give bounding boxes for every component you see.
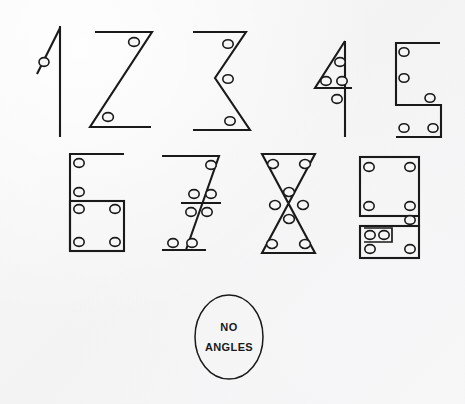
digit-8-group [262,154,315,253]
digit-9-group [360,157,419,258]
angle-dot [187,239,197,248]
angle-dot [129,38,140,47]
angle-dot [365,245,375,254]
angle-dot [284,215,295,224]
digit-1-flag [37,28,60,74]
angle-dot [186,208,196,217]
digit-5-group [396,43,441,137]
digit-7-group [162,156,221,250]
zero-label-line2: ANGLES [205,341,253,353]
angle-dot [202,208,212,217]
angle-dot [298,201,309,210]
digit-2-path [90,32,152,127]
angle-dot [405,245,415,254]
angle-dot [300,240,311,249]
angle-dot [337,77,347,86]
angle-dot [189,190,199,199]
angle-dot [335,58,345,67]
angle-dot [399,124,409,133]
digit-3-path [193,32,250,130]
digit-6-group [70,154,124,251]
angle-dot [300,160,311,169]
digit-0-group: NO ANGLES [195,295,263,379]
angle-dot [110,238,120,247]
angle-dot [206,161,216,170]
angle-dot [428,124,438,133]
digit-6-flag [70,154,124,251]
angle-dot [223,75,233,84]
angle-dot [399,74,409,83]
angle-dot [225,117,235,126]
angles-figure: NO ANGLES [0,0,465,404]
digit-3-group [193,32,250,130]
angle-dot [74,159,84,168]
angle-dot [103,113,114,122]
angle-dot [284,188,295,197]
angle-dot [268,160,279,169]
digit-2-group [90,32,152,127]
angle-dot [364,163,374,172]
angle-dot [405,216,415,225]
angle-dot [332,95,342,104]
digit-1-group [37,26,60,137]
angle-dot [168,239,178,248]
angle-dot [74,205,84,214]
angle-dot [405,202,415,211]
figure-page: NO ANGLES [0,0,465,404]
angle-dot [206,190,216,199]
angle-dot [267,240,278,249]
angle-dot [364,202,374,211]
digit-5-path [396,43,441,137]
angle-dot [365,231,375,240]
angle-dot [405,163,415,172]
angle-dot [379,231,389,240]
angle-dot [74,188,84,197]
angle-dot [270,201,281,210]
zero-label-line1: NO [220,321,237,333]
angle-dot [39,58,49,67]
angle-dot [223,40,233,49]
angle-dot [425,94,435,103]
angle-dot [110,205,120,214]
angle-dot [399,48,409,57]
angle-dot [74,238,84,247]
digit-0-oval [195,295,263,379]
angle-dot [321,77,331,86]
digit-4-group [315,41,352,137]
